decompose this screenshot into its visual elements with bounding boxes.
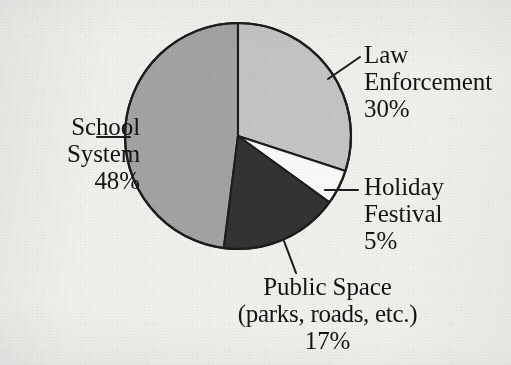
pie-chart-figure: Law Enforcement 30% School System 48% Ho…	[0, 0, 511, 365]
slice-label-law-enforcement-value: 30%	[364, 96, 492, 123]
leader-line-law-enforcement	[328, 57, 360, 79]
slice-label-law-enforcement-line1: Law	[364, 42, 492, 69]
leader-line-public-space	[284, 241, 296, 273]
slice-label-public-space-value: 17%	[238, 328, 417, 355]
slice-label-holiday-festival-line1: Holiday	[364, 174, 444, 201]
slice-label-school-system-line1: School	[67, 114, 140, 141]
slice-label-holiday-festival-line2: Festival	[364, 201, 444, 228]
pie-slice-school-system[interactable]	[125, 23, 238, 248]
slice-label-holiday-festival-value: 5%	[364, 228, 444, 255]
slice-label-law-enforcement-line2: Enforcement	[364, 69, 492, 96]
slice-label-school-system-value: 48%	[67, 168, 140, 195]
slice-label-holiday-festival: Holiday Festival 5%	[364, 174, 444, 254]
slice-label-public-space-line2: (parks, roads, etc.)	[238, 301, 417, 328]
slice-label-public-space-line1: Public Space	[238, 274, 417, 301]
slice-label-school-system: School System 48%	[67, 114, 140, 194]
slice-label-law-enforcement: Law Enforcement 30%	[364, 42, 492, 122]
slice-label-school-system-line2: System	[67, 141, 140, 168]
slice-label-public-space: Public Space (parks, roads, etc.) 17%	[238, 274, 417, 354]
